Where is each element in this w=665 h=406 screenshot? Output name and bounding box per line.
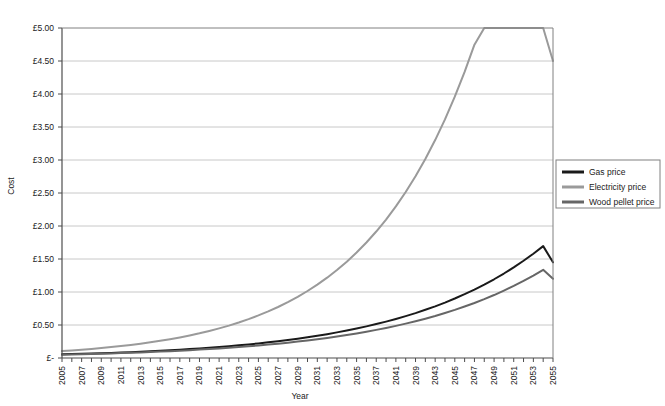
x-tick-label: 2005 (57, 366, 67, 385)
y-tick-label: £4.00 (33, 89, 55, 99)
x-tick-label: 2043 (430, 366, 440, 385)
x-tick-label: 2007 (77, 366, 87, 385)
y-tick-label: £2.00 (33, 221, 55, 231)
x-tick-label: 2009 (96, 366, 106, 385)
y-tick-label: £3.50 (33, 122, 55, 132)
x-tick-label: 2041 (391, 366, 401, 385)
x-tick-label: 2021 (214, 366, 224, 385)
x-tick-label: 2013 (136, 366, 146, 385)
x-tick-label: 2035 (352, 366, 362, 385)
x-tick-label: 2037 (371, 366, 381, 385)
legend-label: Gas price (589, 167, 626, 177)
line-chart: £5.00£4.50£4.00£3.50£3.00£2.50£2.00£1.50… (0, 0, 665, 406)
x-axis-title: Year (291, 391, 308, 401)
x-tick-label: 2027 (273, 366, 283, 385)
y-tick-label: £2.50 (33, 188, 55, 198)
y-tick-label: £1.50 (33, 254, 55, 264)
x-tick-labels: 2005200720092011201320152017201920212023… (57, 366, 558, 385)
legend-label: Electricity price (589, 182, 646, 192)
legend-label: Wood pellet price (589, 197, 655, 207)
x-tick-label: 2011 (116, 366, 126, 385)
y-tick-label: £5.00 (33, 23, 55, 33)
x-tick-label: 2023 (234, 366, 244, 385)
x-tick-label: 2039 (411, 366, 421, 385)
x-tick-label: 2029 (293, 366, 303, 385)
x-tick-label: 2033 (332, 366, 342, 385)
x-tick-label: 2025 (253, 366, 263, 385)
chart-container: £5.00£4.50£4.00£3.50£3.00£2.50£2.00£1.50… (0, 0, 665, 406)
x-tick-label: 2015 (155, 366, 165, 385)
x-tick-label: 2049 (489, 366, 499, 385)
y-tick-label: £1.00 (33, 287, 55, 297)
x-tick-label: 2051 (509, 366, 519, 385)
y-axis-title: Cost (6, 177, 16, 195)
x-tick-label: 2055 (548, 366, 558, 385)
x-tick-label: 2045 (450, 366, 460, 385)
y-tick-labels: £5.00£4.50£4.00£3.50£3.00£2.50£2.00£1.50… (33, 23, 55, 363)
y-tick-label: £- (46, 353, 54, 363)
y-tick-label: £4.50 (33, 56, 55, 66)
x-tick-label: 2053 (528, 366, 538, 385)
y-tick-label: £0.50 (33, 320, 55, 330)
x-tick-label: 2031 (312, 366, 322, 385)
x-tick-label: 2047 (469, 366, 479, 385)
y-tick-label: £3.00 (33, 155, 55, 165)
x-tick-label: 2019 (194, 366, 204, 385)
x-tick-label: 2017 (175, 366, 185, 385)
legend: Gas priceElectricity priceWood pellet pr… (556, 160, 660, 208)
